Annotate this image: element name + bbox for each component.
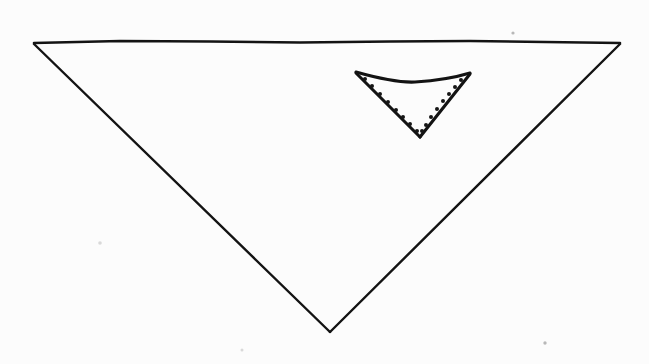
dotted-line-dot bbox=[453, 85, 457, 89]
paper-background bbox=[0, 0, 649, 364]
dotted-line-dot bbox=[435, 107, 439, 111]
dotted-line-dot bbox=[415, 129, 419, 133]
dotted-line-dot bbox=[429, 115, 433, 119]
dotted-line-dot bbox=[420, 129, 424, 133]
dotted-line-dot bbox=[459, 78, 463, 82]
dotted-line-dot bbox=[386, 100, 390, 104]
dotted-line-dot bbox=[424, 123, 428, 127]
dotted-line-dot bbox=[447, 92, 451, 96]
dotted-line-dot bbox=[401, 115, 405, 119]
dotted-line-dot bbox=[394, 108, 398, 112]
line-drawing-svg bbox=[0, 0, 649, 364]
speck-bottom-right bbox=[543, 341, 546, 344]
speck-top-right bbox=[511, 31, 514, 34]
dotted-line-dot bbox=[370, 84, 374, 88]
speck-left-mid bbox=[98, 241, 102, 245]
dotted-line-dot bbox=[363, 77, 367, 81]
dotted-line-dot bbox=[441, 99, 445, 103]
dotted-line-dot bbox=[408, 122, 412, 126]
dotted-line-dot bbox=[378, 92, 382, 96]
speck-bottom-left bbox=[241, 349, 244, 352]
figure-canvas bbox=[0, 0, 649, 364]
